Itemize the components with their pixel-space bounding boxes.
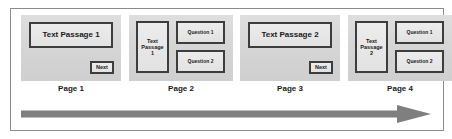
page-caption-3: Page 3 — [240, 82, 340, 96]
page-caption-4: Page 4 — [348, 82, 452, 96]
diagram-frame: Text Passage 1 Next Text Passage 1 Quest… — [10, 8, 444, 131]
page-panel-3: Text Passage 2 Next — [240, 15, 340, 81]
page-panel-1: Text Passage 1 Next — [21, 15, 121, 81]
next-button-page3[interactable]: Next — [309, 61, 333, 74]
page-captions-row: Page 1 Page 2 Page 3 Page 4 — [11, 82, 445, 100]
page-panel-4: Text Passage 2 Question 1 Question 2 — [348, 15, 452, 81]
page-caption-2: Page 2 — [129, 82, 233, 96]
text-passage-box-page1: Text Passage 1 — [29, 22, 113, 48]
text-passage-box-page3: Text Passage 2 — [248, 22, 332, 48]
question-box-2-page2[interactable]: Question 2 — [176, 50, 225, 73]
page-panel-2: Text Passage 1 Question 1 Question 2 — [129, 15, 233, 81]
question-box-1-page2[interactable]: Question 1 — [176, 21, 225, 44]
question-box-1-page4[interactable]: Question 1 — [395, 21, 444, 44]
pages-row: Text Passage 1 Next Text Passage 1 Quest… — [11, 9, 445, 81]
passage-line-3: 2 — [370, 50, 373, 56]
page-caption-1: Page 1 — [21, 82, 121, 96]
flow-arrow-right-icon — [21, 104, 435, 126]
question-box-2-page4[interactable]: Question 2 — [395, 50, 444, 73]
text-passage-box-page4: Text Passage 2 — [355, 21, 388, 73]
text-passage-box-page2: Text Passage 1 — [136, 21, 169, 73]
next-button-page1[interactable]: Next — [90, 61, 114, 74]
passage-line-3: 1 — [151, 50, 154, 56]
